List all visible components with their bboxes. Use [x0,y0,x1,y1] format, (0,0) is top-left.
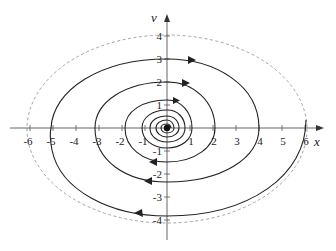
svg-text:-2: -2 [153,168,162,180]
svg-text:-3: -3 [153,191,163,203]
svg-text:-6: -6 [23,135,33,147]
svg-text:3: 3 [234,135,240,147]
svg-text:1: 1 [188,135,194,147]
svg-text:-4: -4 [69,135,79,147]
svg-text:4: 4 [157,30,163,42]
y-axis-label: v [151,10,157,25]
equilibrium-point [164,125,170,131]
phase-portrait-diagram: -6 -5 -4 -3 -2 -1 1 2 3 4 5 6 x 4 3 2 1 … [0,0,336,251]
arrow-icon [188,56,196,64]
svg-text:-1: -1 [138,135,147,147]
arrow-icon [134,209,143,217]
svg-text:-3: -3 [92,135,102,147]
spiral-trajectory [50,59,306,216]
arrow-icon [144,177,152,185]
svg-text:5: 5 [280,135,286,147]
x-axis-label: x [313,134,320,149]
svg-text:-2: -2 [115,135,124,147]
